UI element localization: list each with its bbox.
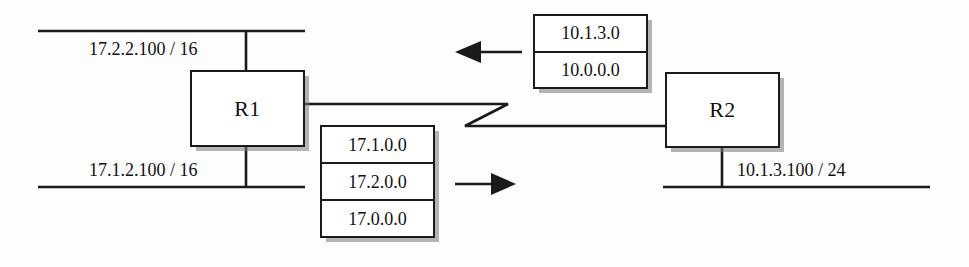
router-r1[interactable]: R1 (190, 70, 305, 147)
serial-link-r1-r2 (305, 104, 665, 126)
routing-table-r2[interactable]: 10.1.3.0 10.0.0.0 (533, 14, 648, 89)
interface-label-r1-lan-bottom: 17.1.2.100 / 16 (89, 161, 198, 179)
route-entry: 17.1.0.0 (348, 136, 407, 154)
route-entry: 17.0.0.0 (348, 210, 407, 228)
arrow-right-icon (455, 173, 516, 195)
network-diagram: R1 R2 10.1.3.0 10.0.0.0 17.1.0.0 17.2.0.… (0, 0, 969, 267)
routing-table-row[interactable]: 17.1.0.0 (322, 127, 433, 164)
route-entry: 10.0.0.0 (561, 61, 620, 79)
interface-label-r1-lan-top: 17.2.2.100 / 16 (89, 40, 198, 58)
arrow-left-icon (455, 41, 522, 63)
route-entry: 17.2.0.0 (348, 173, 407, 191)
routing-table-row[interactable]: 10.1.3.0 (535, 16, 646, 53)
interface-label-r2-lan: 10.1.3.100 / 24 (737, 161, 846, 179)
router-r2-label: R2 (709, 99, 736, 121)
router-r1-label: R1 (234, 98, 261, 120)
routing-table-row[interactable]: 17.0.0.0 (322, 201, 433, 236)
routing-table-row[interactable]: 17.2.0.0 (322, 164, 433, 201)
routing-table-row[interactable]: 10.0.0.0 (535, 53, 646, 88)
routing-table-r1[interactable]: 17.1.0.0 17.2.0.0 17.0.0.0 (320, 125, 435, 238)
route-entry: 10.1.3.0 (561, 24, 620, 42)
router-r2[interactable]: R2 (665, 72, 780, 148)
